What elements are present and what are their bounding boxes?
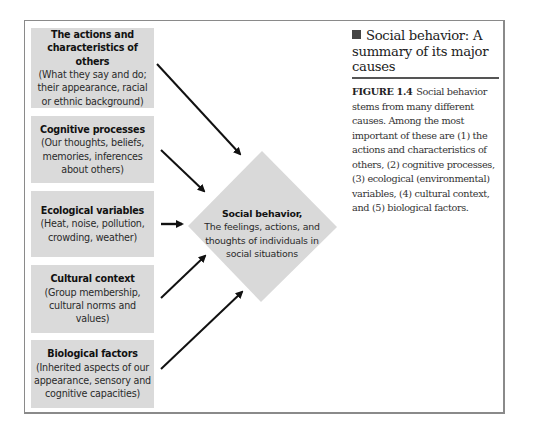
arrow-cognitive-to-behavior: [161, 150, 204, 191]
square-bullet-icon: [352, 30, 361, 39]
figure-title: Social behavior: A summary of its major …: [352, 28, 502, 75]
caption-divider: [352, 77, 499, 79]
figure-label: FIGURE 1.4: [352, 86, 412, 97]
outcome-title: Social behavior,: [198, 207, 326, 220]
figure-title-text: Social behavior: A summary of its major …: [352, 28, 488, 74]
arrow-actions-to-behavior: [157, 64, 240, 154]
outcome-description: The feelings, actions, and thoughts of i…: [198, 220, 326, 260]
figure-caption: FIGURE 1.4Social behavior stems from man…: [352, 85, 504, 216]
arrow-cultural-to-behavior: [161, 256, 205, 298]
figure-caption-text: Social behavior stems from many differen…: [352, 86, 495, 213]
outcome-label: Social behavior, The feelings, actions, …: [198, 207, 326, 261]
arrow-biological-to-behavior: [161, 292, 242, 369]
